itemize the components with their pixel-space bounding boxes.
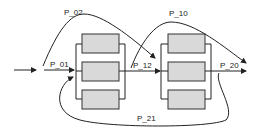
p20-label: P_20 — [220, 61, 239, 70]
stage-1-unit-1 — [82, 34, 119, 53]
p12-label: P_12 — [133, 61, 152, 70]
stage-1-group — [76, 34, 125, 109]
p21-label: P_21 — [137, 114, 156, 123]
stage-1-unit-2 — [82, 62, 119, 81]
stage-1-unit-3 — [82, 90, 119, 109]
p02-label: P_02 — [64, 8, 83, 17]
stage-2-unit-1 — [168, 34, 205, 53]
stage-2-unit-3 — [168, 90, 205, 109]
p10-label: P_10 — [169, 9, 188, 18]
flow-diagram: P_01 P_12 P_20 P_02 P_10 — [0, 0, 258, 132]
p01-label: P_01 — [50, 60, 69, 69]
stage-2-unit-2 — [168, 62, 205, 81]
stage-2-group — [161, 34, 211, 109]
